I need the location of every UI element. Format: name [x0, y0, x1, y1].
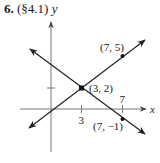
point-3-2 — [79, 86, 84, 91]
tick-label-3: 3 — [79, 114, 85, 126]
coordinate-plot: (7, 5) (3, 2) (7, −1) 3 7 x — [0, 0, 160, 163]
label-7-5: (7, 5) — [100, 41, 124, 54]
point-7-5 — [121, 54, 125, 58]
x-axis-label: x — [149, 103, 155, 115]
tick-label-7: 7 — [120, 93, 126, 105]
line-falling — [30, 49, 145, 134]
line-rising — [29, 40, 145, 128]
label-3-2: (3, 2) — [89, 82, 113, 95]
label-7-neg1: (7, −1) — [93, 120, 123, 133]
